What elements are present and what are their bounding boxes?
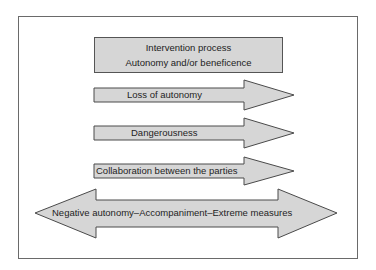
arrow-label-dangerousness: Dangerousness	[131, 127, 198, 139]
arrow-label-loss-of-autonomy: Loss of autonomy	[127, 89, 202, 101]
arrow-label-collaboration: Collaboration between the parties	[96, 165, 238, 177]
double-arrow-label: Negative autonomy–Accompaniment–Extreme …	[52, 207, 292, 219]
intervention-diagram: Intervention process Autonomy and/or ben…	[0, 0, 376, 270]
